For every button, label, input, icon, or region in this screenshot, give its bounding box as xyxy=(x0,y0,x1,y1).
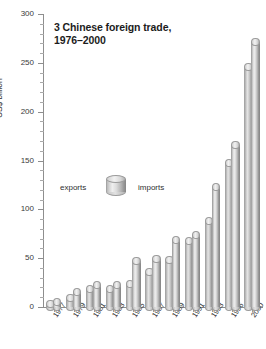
y-tick-label: 300 xyxy=(0,10,34,18)
y-axis-title: US$ billion xyxy=(0,78,4,118)
plot-area xyxy=(44,14,262,307)
bar-group xyxy=(44,14,262,307)
y-axis-tick-labels: 050100150200250300 xyxy=(0,0,36,349)
bar-body xyxy=(251,42,259,307)
bar-cylinder-front xyxy=(251,38,259,307)
y-tick-label: 250 xyxy=(0,59,34,67)
y-tick-label: 0 xyxy=(0,303,34,311)
y-tick-label: 50 xyxy=(0,254,34,262)
y-tick-label: 100 xyxy=(0,205,34,213)
y-tick-label: 200 xyxy=(0,108,34,116)
chart-container: 050100150200250300 US$ billion 197719791… xyxy=(0,0,266,349)
y-tick-label: 150 xyxy=(0,157,34,165)
